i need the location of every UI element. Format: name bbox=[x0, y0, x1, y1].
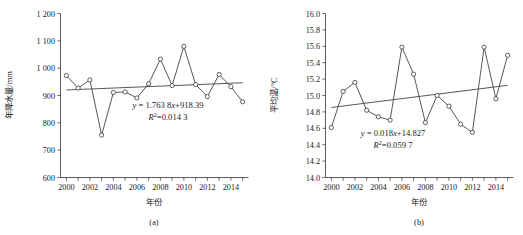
x-tick-label: 2010 bbox=[176, 183, 192, 192]
x-tick-label: 2006 bbox=[394, 183, 410, 192]
y-tick-label: 15.2 bbox=[306, 75, 320, 84]
y-tick-label: 14.8 bbox=[306, 108, 320, 117]
data-point-marker bbox=[376, 115, 380, 119]
x-axis-title-b: 年份 bbox=[411, 197, 428, 207]
data-point-marker bbox=[123, 90, 127, 94]
x-tick-label: 2014 bbox=[488, 183, 504, 192]
y-axis-title-b: 平均温/°C bbox=[269, 77, 279, 113]
data-point-marker bbox=[459, 122, 463, 126]
r-squared-a: R2=0.014 3 bbox=[148, 112, 188, 122]
y-tick-label: 14.0 bbox=[306, 174, 320, 183]
series-line-a bbox=[66, 46, 242, 135]
y-tick-label: 14.6 bbox=[306, 124, 320, 133]
y-tick-label: 14.4 bbox=[306, 141, 320, 150]
x-tick-label: 2008 bbox=[417, 183, 433, 192]
trendline-a bbox=[66, 83, 242, 90]
data-point-marker bbox=[182, 44, 186, 48]
data-point-marker bbox=[423, 120, 427, 124]
data-point-marker bbox=[100, 133, 104, 137]
data-point-marker bbox=[241, 100, 245, 104]
x-tick-label: 2000 bbox=[323, 183, 339, 192]
x-tick-label: 2010 bbox=[441, 183, 457, 192]
data-point-marker bbox=[341, 89, 345, 93]
chart-a-x-ticks: 20002002200420062008201020122014 bbox=[58, 178, 242, 193]
series-line-b bbox=[331, 47, 507, 132]
chart-b-x-ticks: 20002002200420062008201020122014 bbox=[323, 178, 507, 193]
data-point-marker bbox=[88, 78, 92, 82]
data-point-marker bbox=[388, 118, 392, 122]
y-tick-label: 15.6 bbox=[306, 42, 320, 51]
data-point-marker bbox=[217, 72, 221, 76]
equation-a: y = 1.763 8x+918.39 bbox=[131, 100, 203, 110]
x-tick-label: 2008 bbox=[152, 183, 168, 192]
data-point-marker bbox=[412, 72, 416, 76]
data-point-marker bbox=[111, 90, 115, 94]
x-tick-label: 2012 bbox=[199, 183, 215, 192]
data-point-marker bbox=[435, 93, 439, 97]
chart-panel-a: 6007008009001 0001 1001 200 200020022004… bbox=[0, 0, 261, 235]
chart-a-svg: 6007008009001 0001 1001 200 200020022004… bbox=[0, 0, 261, 235]
y-tick-label: 600 bbox=[43, 174, 55, 183]
y-tick-label: 700 bbox=[43, 146, 55, 155]
series-markers-a bbox=[64, 44, 244, 137]
data-point-marker bbox=[365, 108, 369, 112]
data-point-marker bbox=[64, 73, 68, 77]
chart-a-axes bbox=[61, 14, 249, 178]
figure-container: 6007008009001 0001 1001 200 200020022004… bbox=[0, 0, 523, 235]
x-tick-label: 2000 bbox=[58, 183, 74, 192]
panel-caption-b: (b) bbox=[414, 218, 424, 227]
x-axis-title-a: 年份 bbox=[146, 197, 163, 207]
y-tick-label: 15.0 bbox=[306, 92, 320, 101]
panel-caption-a: (a) bbox=[149, 218, 159, 227]
data-point-marker bbox=[229, 85, 233, 89]
x-tick-label: 2006 bbox=[129, 183, 145, 192]
x-tick-label: 2014 bbox=[223, 183, 239, 192]
data-point-marker bbox=[494, 97, 498, 101]
x-tick-label: 2002 bbox=[82, 183, 98, 192]
y-tick-label: 800 bbox=[43, 119, 55, 128]
y-tick-label: 16.0 bbox=[306, 10, 320, 19]
y-axis-title-a: 年降水量/mm bbox=[4, 71, 14, 119]
y-tick-label: 15.4 bbox=[306, 59, 320, 68]
chart-panel-b: 14.014.214.414.614.815.015.215.415.615.8… bbox=[261, 0, 522, 235]
data-point-marker bbox=[353, 80, 357, 84]
y-tick-label: 900 bbox=[43, 92, 55, 101]
x-tick-label: 2002 bbox=[347, 183, 363, 192]
data-point-marker bbox=[170, 84, 174, 88]
r-squared-b: R2=0.059 7 bbox=[373, 140, 414, 150]
y-tick-label: 1 000 bbox=[37, 64, 55, 73]
data-point-marker bbox=[400, 45, 404, 49]
data-point-marker bbox=[76, 86, 80, 90]
data-point-marker bbox=[470, 130, 474, 134]
data-point-marker bbox=[205, 94, 209, 98]
x-tick-label: 2004 bbox=[105, 183, 121, 192]
x-tick-label: 2012 bbox=[464, 183, 480, 192]
chart-b-svg: 14.014.214.414.614.815.015.215.415.615.8… bbox=[261, 0, 523, 235]
chart-b-axes bbox=[326, 14, 514, 178]
chart-b-y-ticks: 14.014.214.414.614.815.015.215.415.615.8… bbox=[306, 10, 326, 183]
y-tick-label: 14.2 bbox=[306, 157, 320, 166]
y-tick-label: 1 200 bbox=[37, 10, 55, 19]
x-tick-label: 2004 bbox=[370, 183, 386, 192]
data-point-marker bbox=[482, 45, 486, 49]
data-point-marker bbox=[194, 82, 198, 86]
data-point-marker bbox=[329, 125, 333, 129]
data-point-marker bbox=[447, 104, 451, 108]
y-tick-label: 1 100 bbox=[37, 37, 55, 46]
data-point-marker bbox=[506, 53, 510, 57]
data-point-marker bbox=[158, 57, 162, 61]
equation-b: y = 0.018x+14.827 bbox=[360, 128, 426, 138]
data-point-marker bbox=[147, 82, 151, 86]
y-tick-label: 15.8 bbox=[306, 26, 320, 35]
chart-a-y-ticks: 6007008009001 0001 1001 200 bbox=[37, 10, 61, 183]
